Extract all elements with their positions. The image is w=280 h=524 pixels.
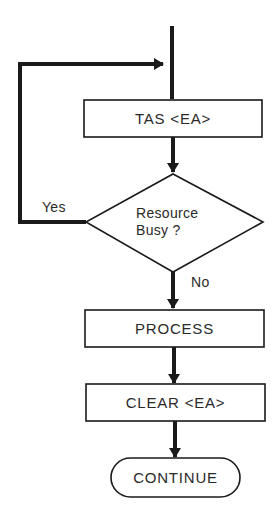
no-edge-label: No	[191, 274, 210, 290]
decision-label-line2: Busy ?	[136, 222, 181, 238]
continue-node-label: CONTINUE	[111, 458, 240, 497]
process-node-label: PROCESS	[85, 310, 264, 347]
flowchart-canvas	[0, 0, 280, 524]
decision-label-line1: Resource	[136, 205, 198, 221]
clear-node-label: CLEAR <EA>	[86, 384, 265, 421]
tas-node-label: TAS <EA>	[84, 100, 262, 137]
yes-edge-label: Yes	[42, 199, 66, 215]
